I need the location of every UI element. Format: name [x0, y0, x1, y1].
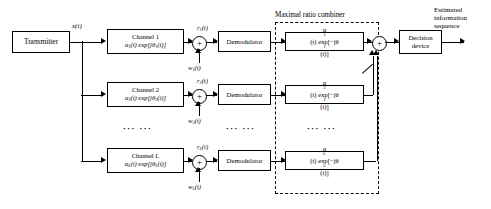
- channel-box-L: Channel L αL(t) exp[jθL(t)]: [107, 148, 184, 173]
- demodulator-box-2: Demodulator: [218, 84, 271, 105]
- combiner-summer: +: [372, 36, 387, 51]
- signal-label-x: x(t): [72, 22, 82, 30]
- signal-label-rL: rL(t): [197, 143, 208, 152]
- demodulator-1-label: Demodulator: [227, 38, 263, 46]
- output-label-line3: sequence: [434, 22, 467, 30]
- mrc-weight-box-L: αL(t) exp[−jθL(t)]: [285, 151, 364, 170]
- ellipsis-mrc-weights: ··· ···: [307, 124, 336, 133]
- arrow-into-channel-1: [101, 38, 106, 44]
- wire-bus-to-channel-1: [81, 42, 103, 43]
- wire-weight2-riser: [373, 56, 374, 95]
- arrow-output: [460, 38, 465, 44]
- arrow-noise-2: [195, 101, 201, 106]
- arrow-noise-L: [195, 167, 201, 172]
- noise-label-wL: wL(t): [188, 183, 201, 192]
- maximal-ratio-combiner-title: Maximal ratio combiner: [275, 11, 345, 19]
- wire-weightL-out: [364, 161, 376, 162]
- transmitter-label: Transmitter: [24, 38, 58, 46]
- noise-summer-2-symbol: +: [197, 92, 202, 101]
- transmitter-box: Transmitter: [12, 31, 70, 53]
- decision-device-label-line1: Decision: [408, 34, 432, 42]
- demodulator-box-1: Demodulator: [218, 31, 271, 52]
- demodulator-L-label: Demodulator: [227, 157, 263, 165]
- channel-2-name: Channel 2: [132, 86, 159, 93]
- arrow-into-channel-L: [101, 157, 106, 163]
- noise-label-w1: w1(t): [188, 64, 201, 73]
- arrow-into-combiner-summer-L: [373, 50, 379, 55]
- channel-L-gain: αL(t) exp[jθL(t)]: [125, 160, 167, 169]
- diagram-canvas: Transmitter x(t) Channel 1 α1(t) exp[jθ1…: [0, 0, 491, 209]
- output-label-line2: information: [434, 14, 467, 22]
- channel-1-gain: α1(t) exp[jθ1(t)]: [125, 41, 166, 50]
- output-label: Estimated information sequence: [434, 6, 467, 30]
- channel-box-1: Channel 1 α1(t) exp[jθ1(t)]: [107, 29, 184, 54]
- arrow-noise-1: [195, 48, 201, 53]
- wire-weightL-riser: [377, 56, 378, 161]
- signal-label-r1: r1(t): [197, 24, 208, 33]
- arrow-into-channel-2: [101, 91, 106, 97]
- channel-2-gain: α2(t) exp[jθ2(t)]: [125, 94, 166, 103]
- ellipsis-demodulators: ··· ···: [226, 124, 255, 133]
- ellipsis-channels: ··· ···: [123, 124, 152, 133]
- channel-1-name: Channel 1: [132, 33, 159, 40]
- noise-summer-1-symbol: +: [197, 39, 202, 48]
- noise-label-w2: w2(t): [188, 117, 201, 126]
- mrc-weight-box-1: α1(t) exp[−jθ1(t)]: [285, 32, 364, 51]
- decision-device-label-line2: device: [412, 42, 430, 50]
- demodulator-2-label: Demodulator: [227, 91, 263, 99]
- decision-device-box: Decision device: [399, 30, 442, 54]
- wire-distribution-bus: [82, 41, 83, 161]
- demodulator-box-L: Demodulator: [218, 150, 271, 171]
- channel-box-2: Channel 2 α2(t) exp[jθ2(t)]: [107, 82, 184, 107]
- wire-bus-to-channel-2: [81, 95, 103, 96]
- mrc-weight-box-2: α2(t) exp[−jθ2(t)]: [285, 85, 364, 104]
- output-label-line1: Estimated: [434, 6, 467, 14]
- wire-bus-to-channel-L: [81, 161, 103, 162]
- noise-summer-L-symbol: +: [197, 158, 202, 167]
- channel-L-name: Channel L: [132, 152, 160, 159]
- arrow-into-combiner-summer-1: [367, 38, 372, 44]
- combiner-summer-symbol: +: [377, 39, 382, 48]
- signal-label-r2: r2(t): [197, 77, 208, 86]
